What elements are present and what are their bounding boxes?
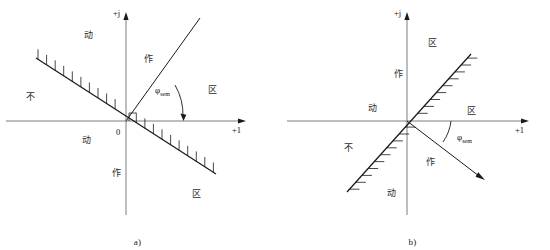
angle-arc-arrow-a [180, 114, 186, 121]
region-label: 作 [144, 53, 153, 64]
phi-ray-arrow-b [476, 172, 486, 180]
panel-b-caption: b) [275, 237, 550, 247]
vertical-axis-label-a: +j [113, 8, 120, 18]
region-label: 动 [387, 188, 396, 198]
region-label: 区 [467, 106, 476, 116]
panel-a: +j +1 0 φsem 动 不 作 区 动 作 区 a) [0, 0, 275, 250]
region-label: 作 [426, 156, 435, 167]
angle-arc-a [175, 85, 183, 117]
panel-b: +j +1 φsem 区 作 动 区 不 作 动 b) [275, 0, 550, 250]
panel-b-diagram: +j +1 φsem 区 作 动 区 不 作 动 [275, 0, 550, 250]
vertical-axis-arrow-a [123, 12, 128, 20]
origin-label-a: 0 [116, 127, 120, 137]
horizontal-axis-label-b: +1 [515, 125, 524, 135]
angle-subscript-b: sem [462, 138, 472, 144]
vertical-axis-label-b: +j [394, 8, 401, 18]
figure-container: +j +1 0 φsem 动 不 作 区 动 作 区 a) [0, 0, 550, 250]
region-label: 不 [26, 92, 35, 102]
panel-a-caption: a) [0, 237, 275, 247]
region-label: 作 [394, 68, 403, 79]
vertical-axis-arrow-b [404, 12, 409, 20]
phi-ray-a [126, 18, 200, 121]
region-label: 区 [428, 38, 437, 48]
angle-subscript-a: sem [160, 91, 170, 97]
region-label: 动 [84, 30, 93, 40]
angle-label-b: φsem [457, 132, 472, 144]
horizontal-axis-label-a: +1 [232, 125, 241, 135]
region-label: 区 [192, 189, 201, 199]
phi-ray-b [407, 121, 479, 176]
region-label: 不 [344, 143, 353, 153]
horizontal-axis-arrow-a [238, 118, 246, 123]
region-label: 区 [208, 85, 217, 95]
angle-label-a: φsem [155, 85, 170, 97]
panel-a-diagram: +j +1 0 φsem 动 不 作 区 动 作 区 [0, 0, 275, 250]
region-label: 动 [82, 135, 91, 145]
angle-arc-b [443, 121, 451, 142]
horizontal-axis-arrow-b [521, 118, 529, 123]
region-label: 动 [368, 103, 377, 113]
region-label: 作 [112, 167, 121, 178]
hatching-b [350, 58, 478, 189]
